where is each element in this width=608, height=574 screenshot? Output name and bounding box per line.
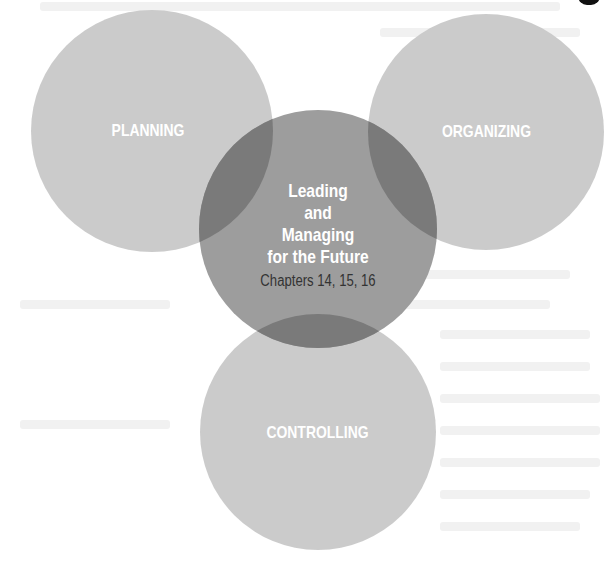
center-label-block: Leading and Managing for the Future Chap…: [218, 180, 418, 292]
planning-label: PLANNING: [99, 121, 197, 141]
center-title-line-2: and: [236, 202, 400, 224]
controlling-label: CONTROLLING: [262, 423, 373, 443]
organizing-label: ORGANIZING: [435, 122, 538, 142]
center-title-line-3: Managing: [236, 224, 400, 246]
center-subtitle: Chapters 14, 15, 16: [236, 270, 400, 292]
center-title-line-1: Leading: [236, 180, 400, 202]
center-title-line-4: for the Future: [236, 246, 400, 268]
